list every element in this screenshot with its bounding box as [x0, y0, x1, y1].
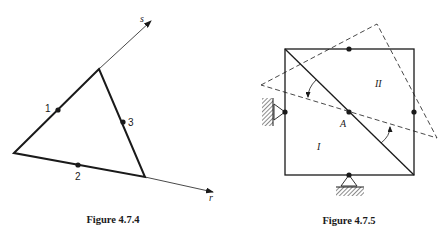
s-axis-label: s [140, 13, 144, 24]
left-pin-support-icon [262, 98, 285, 126]
figure-4-7-5: A I II Figure 4.7.5 [261, 24, 437, 226]
bottom-pin-support-icon [336, 175, 364, 196]
node-1 [55, 107, 60, 112]
node-3 [120, 119, 125, 124]
node-a-center [346, 109, 351, 114]
s-axis [99, 21, 151, 69]
figure-4-7-5-caption: Figure 4.7.5 [322, 215, 375, 226]
rotation-arrow-upper [308, 80, 316, 97]
node-top [346, 46, 351, 51]
node-2-label: 2 [75, 171, 81, 182]
rotation-arrow-lower [381, 127, 390, 143]
node-2 [75, 162, 80, 167]
r-axis-label: r [209, 192, 213, 203]
figure-4-7-4-caption: Figure 4.7.4 [86, 214, 140, 225]
figure-4-7-4: s r 1 2 3 Figure 4.7.4 [14, 13, 213, 225]
point-a-label: A [339, 118, 347, 129]
r-axis [145, 177, 213, 192]
node-3-label: 3 [128, 117, 134, 128]
node-right [411, 109, 416, 114]
region-i-label: I [316, 141, 321, 152]
node-1-label: 1 [45, 103, 51, 114]
figure-canvas: s r 1 2 3 Figure 4.7.4 [0, 0, 448, 230]
rotated-dashed-triangle [261, 24, 437, 138]
region-ii-label: II [374, 78, 382, 89]
